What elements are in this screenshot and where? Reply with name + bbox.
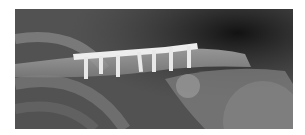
xray-illustration xyxy=(15,9,293,129)
xray-image xyxy=(15,9,293,129)
